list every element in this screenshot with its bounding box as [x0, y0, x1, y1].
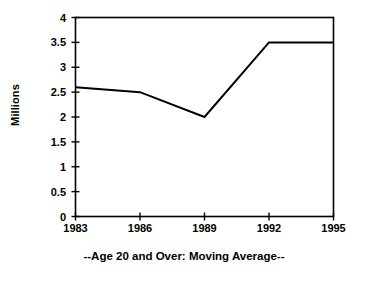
x-tick-label: 1989	[192, 222, 216, 234]
x-axis-tick-labels: 19831986198919921995	[0, 222, 368, 240]
data-series-line	[76, 42, 334, 117]
x-tick-label: 1986	[128, 222, 152, 234]
x-tick-label: 1992	[257, 222, 281, 234]
x-tick-label: 1995	[321, 222, 345, 234]
chart-caption: --Age 20 and Over: Moving Average--	[0, 250, 368, 262]
x-tick-label: 1983	[63, 222, 87, 234]
line-chart: Millions 00.511.522.533.54 1983198619891…	[0, 0, 368, 281]
